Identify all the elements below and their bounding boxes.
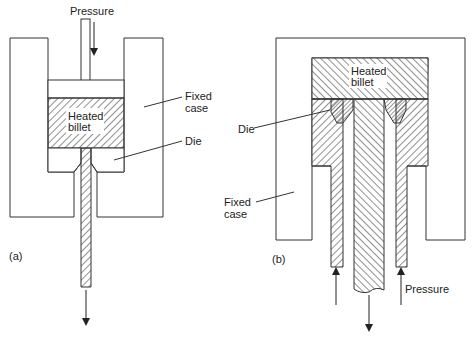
fixed-case-label-a-1: Fixed xyxy=(185,90,212,102)
billet-label-a-2: billet xyxy=(68,121,91,133)
extrusion-diagram: Pressure Fixed case Heated billet Die (a… xyxy=(0,0,475,337)
die-label-a: Die xyxy=(185,135,202,147)
fixed-case-label-b-1: Fixed xyxy=(224,196,251,208)
figure-label-a: (a) xyxy=(9,250,22,262)
die-a xyxy=(48,148,81,172)
extrudate-a xyxy=(81,148,91,287)
fixed-case-label-a-2: case xyxy=(185,102,208,114)
plunger-rod xyxy=(81,19,90,81)
fixed-case-label-b-2: case xyxy=(224,208,247,220)
figure-label-b: (b) xyxy=(272,253,285,265)
figure-a-direct-extrusion xyxy=(10,19,182,322)
pressure-label-a: Pressure xyxy=(70,5,114,17)
die-label-b: Die xyxy=(238,123,255,135)
billet-label-b-2: billet xyxy=(351,76,374,88)
pressure-label-b: Pressure xyxy=(405,283,449,295)
extrudate-b xyxy=(354,99,384,293)
ram-plate xyxy=(48,80,124,98)
